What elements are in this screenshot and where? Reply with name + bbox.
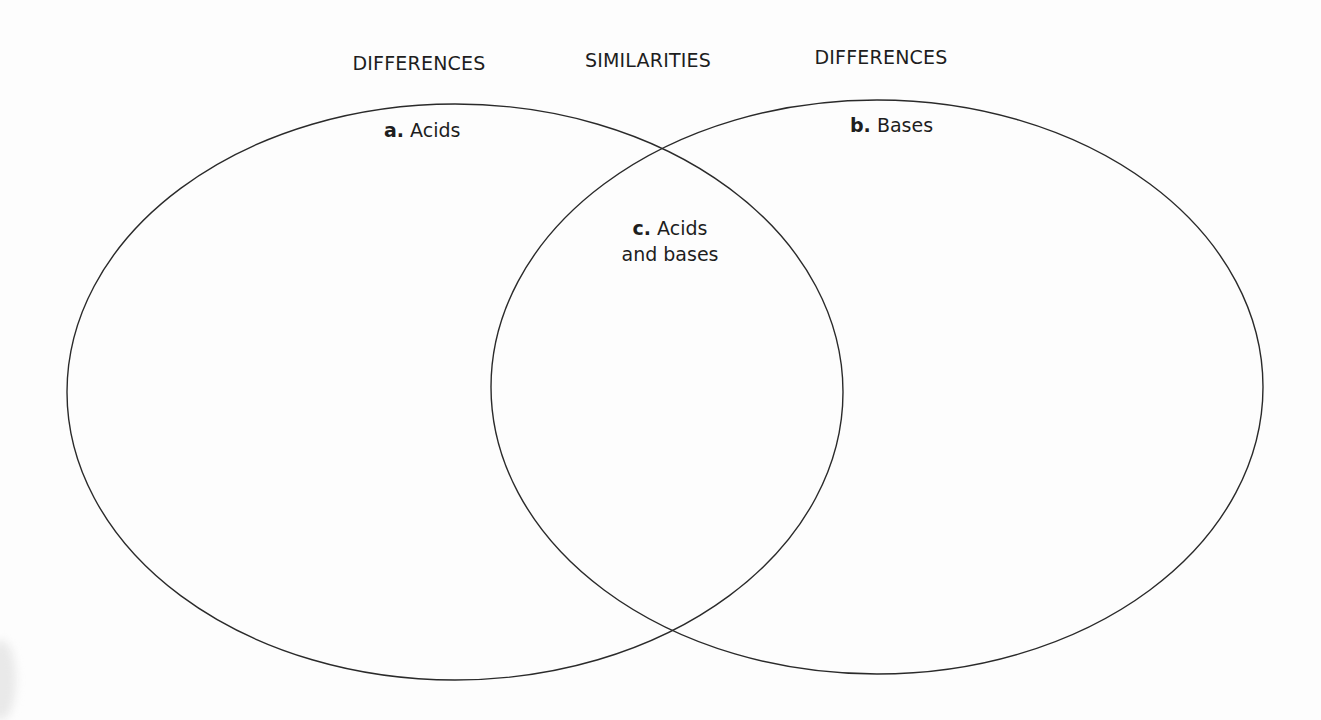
header-differences-right: DIFFERENCES (814, 46, 947, 68)
set-letter-c: c. (633, 217, 651, 239)
header-similarities: SIMILARITIES (585, 49, 711, 71)
set-name-bases: Bases (877, 114, 933, 136)
set-label-bases: b. Bases (850, 112, 933, 138)
intersection-line-2: and bases (622, 241, 719, 267)
intersection-line-1: c. Acids (622, 215, 719, 241)
bases-ellipse (491, 100, 1263, 674)
intersection-label: c. Acids and bases (622, 215, 719, 267)
set-name-acids: Acids (410, 119, 460, 141)
header-differences-left: DIFFERENCES (352, 52, 485, 74)
acids-ellipse (67, 104, 843, 680)
set-letter-b: b. (850, 114, 871, 136)
intersection-text-1: Acids (657, 217, 707, 239)
set-label-acids: a. Acids (384, 117, 460, 143)
set-letter-a: a. (384, 119, 404, 141)
